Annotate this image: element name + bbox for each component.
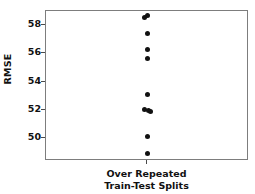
data-point [145, 151, 150, 156]
plot-frame [45, 10, 248, 160]
data-point [148, 109, 153, 114]
y-axis-tick-label: 56 [0, 47, 41, 57]
y-axis-tick-labels: 5052545658 [0, 0, 41, 194]
chart-figure: RMSE 5052545658 Over Repeated Train-Test… [0, 0, 255, 194]
x-axis-tick-mark [146, 160, 147, 164]
x-axis-title: Over Repeated Train-Test Splits [45, 168, 248, 191]
y-axis-tick-label: 54 [0, 76, 41, 86]
data-point [145, 56, 150, 61]
plot-area [46, 11, 247, 159]
data-point [145, 134, 150, 139]
data-point [142, 15, 147, 20]
data-point [145, 47, 150, 52]
data-point [145, 31, 150, 36]
y-axis-tick-label: 52 [0, 104, 41, 114]
x-axis-title-line-2: Train-Test Splits [45, 180, 248, 192]
data-point [145, 92, 150, 97]
y-axis-tick-label: 50 [0, 132, 41, 142]
x-axis-title-line-1: Over Repeated [45, 168, 248, 180]
y-axis-tick-label: 58 [0, 19, 41, 29]
